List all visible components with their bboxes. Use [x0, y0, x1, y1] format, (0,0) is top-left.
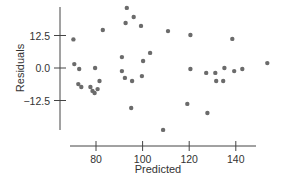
data-point [148, 51, 152, 55]
data-point [240, 67, 244, 71]
data-point [265, 61, 269, 65]
data-point [166, 29, 170, 33]
x-tick-label: 140 [227, 153, 245, 165]
data-point [93, 66, 97, 70]
data-point [141, 59, 145, 63]
data-point [213, 71, 217, 75]
data-point [188, 67, 192, 71]
data-point [101, 28, 105, 32]
data-point [79, 85, 83, 89]
data-point [77, 67, 81, 71]
data-points [71, 6, 269, 132]
data-point [204, 71, 208, 75]
data-point [132, 15, 136, 19]
data-point [125, 6, 129, 10]
data-point [123, 21, 127, 25]
x-axis: 80100120140 Predicted [70, 141, 256, 175]
data-point [214, 79, 218, 83]
data-point [72, 62, 76, 66]
data-point [161, 128, 165, 132]
x-tick-label: 80 [90, 153, 102, 165]
data-point [222, 66, 226, 70]
data-point [188, 33, 192, 37]
data-point [230, 37, 234, 41]
y-tick-label: 12.5 [30, 30, 51, 42]
data-point [88, 85, 92, 89]
data-point [185, 102, 189, 106]
x-tick-label: 120 [180, 153, 198, 165]
y-tick-label: −12.5 [23, 95, 50, 107]
data-point [71, 37, 75, 41]
residual-scatter-plot: 12.50.0−12.5 Residuals 80100120140 Predi… [0, 0, 290, 187]
data-point [120, 69, 124, 73]
y-axis-title: Residuals [14, 43, 26, 92]
data-point [221, 79, 225, 83]
data-point [140, 74, 144, 78]
data-point [123, 76, 127, 80]
data-point [130, 79, 134, 83]
y-axis: 12.50.0−12.5 Residuals [14, 7, 66, 130]
data-point [205, 111, 209, 115]
data-point [120, 55, 124, 59]
data-point [129, 106, 133, 110]
data-point [95, 87, 99, 91]
data-point [232, 69, 236, 73]
y-tick-label: 0.0 [35, 62, 50, 74]
data-point [139, 24, 143, 28]
x-axis-title: Predicted [135, 163, 181, 175]
data-point [92, 91, 96, 95]
data-point [97, 79, 101, 83]
